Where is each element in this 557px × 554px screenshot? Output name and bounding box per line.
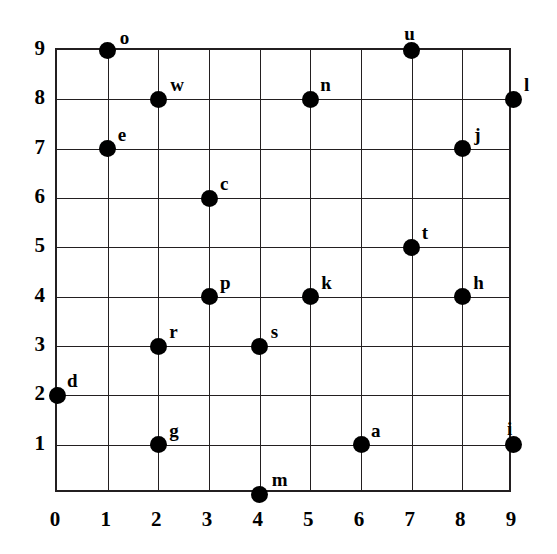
data-point-p[interactable] bbox=[201, 288, 218, 305]
x-axis-tick-0: 0 bbox=[40, 509, 70, 530]
x-axis-tick-8: 8 bbox=[445, 509, 475, 530]
y-axis-tick-3: 3 bbox=[15, 334, 45, 355]
gridline-vertical bbox=[209, 50, 210, 490]
y-axis-tick-7: 7 bbox=[15, 137, 45, 158]
data-point-t[interactable] bbox=[403, 239, 420, 256]
point-label-g: g bbox=[169, 421, 179, 440]
gridline-vertical bbox=[158, 50, 159, 490]
point-label-d: d bbox=[67, 371, 78, 390]
point-label-s: s bbox=[271, 322, 278, 341]
gridline-horizontal bbox=[57, 247, 509, 248]
gridline-vertical bbox=[462, 50, 463, 490]
data-point-h[interactable] bbox=[454, 288, 471, 305]
point-label-u: u bbox=[404, 24, 415, 43]
point-label-p: p bbox=[220, 273, 231, 292]
data-point-m[interactable] bbox=[251, 486, 268, 503]
gridline-vertical bbox=[260, 50, 261, 490]
point-label-e: e bbox=[118, 125, 126, 144]
gridline-horizontal bbox=[57, 99, 509, 100]
gridline-horizontal bbox=[57, 198, 509, 199]
point-label-o: o bbox=[120, 28, 130, 47]
data-point-s[interactable] bbox=[251, 338, 268, 355]
x-axis-tick-2: 2 bbox=[141, 509, 171, 530]
point-label-h: h bbox=[473, 273, 484, 292]
x-axis-tick-7: 7 bbox=[395, 509, 425, 530]
point-label-i: i bbox=[507, 419, 512, 438]
gridline-horizontal bbox=[57, 346, 509, 347]
data-point-c[interactable] bbox=[201, 190, 218, 207]
point-label-r: r bbox=[169, 322, 177, 341]
gridline-vertical bbox=[310, 50, 311, 490]
x-axis-tick-6: 6 bbox=[344, 509, 374, 530]
data-point-n[interactable] bbox=[302, 91, 319, 108]
data-point-e[interactable] bbox=[99, 140, 116, 157]
x-axis-tick-3: 3 bbox=[192, 509, 222, 530]
data-point-i[interactable] bbox=[505, 436, 522, 453]
point-label-k: k bbox=[321, 273, 332, 292]
point-label-t: t bbox=[422, 223, 428, 242]
x-axis-tick-4: 4 bbox=[243, 509, 273, 530]
plot-area bbox=[55, 48, 511, 492]
scatter-plot-figure: 123456789 0123456789 ouwnlejctpkhrsdgaim bbox=[0, 0, 557, 554]
x-axis-tick-5: 5 bbox=[293, 509, 323, 530]
y-axis-tick-1: 1 bbox=[15, 433, 45, 454]
gridline-horizontal bbox=[57, 149, 509, 150]
gridline-vertical bbox=[361, 50, 362, 490]
gridline-horizontal bbox=[57, 395, 509, 396]
gridline-vertical bbox=[108, 50, 109, 490]
y-axis-tick-8: 8 bbox=[15, 87, 45, 108]
data-point-d[interactable] bbox=[49, 387, 66, 404]
point-label-w: w bbox=[170, 75, 184, 94]
data-point-j[interactable] bbox=[454, 140, 471, 157]
y-axis-tick-2: 2 bbox=[15, 383, 45, 404]
y-axis-tick-5: 5 bbox=[15, 235, 45, 256]
data-point-g[interactable] bbox=[150, 436, 167, 453]
data-point-k[interactable] bbox=[302, 288, 319, 305]
y-axis-tick-9: 9 bbox=[15, 38, 45, 59]
data-point-w[interactable] bbox=[150, 91, 167, 108]
y-axis-tick-4: 4 bbox=[15, 285, 45, 306]
gridline-vertical bbox=[412, 50, 413, 490]
data-point-a[interactable] bbox=[353, 436, 370, 453]
data-point-r[interactable] bbox=[150, 338, 167, 355]
point-label-c: c bbox=[220, 174, 228, 193]
data-point-l[interactable] bbox=[505, 91, 522, 108]
point-label-m: m bbox=[272, 470, 288, 489]
y-axis-tick-6: 6 bbox=[15, 186, 45, 207]
data-point-u[interactable] bbox=[403, 42, 420, 59]
gridline-horizontal bbox=[57, 445, 509, 446]
gridline-horizontal bbox=[57, 297, 509, 298]
data-point-o[interactable] bbox=[99, 42, 116, 59]
point-label-n: n bbox=[320, 75, 331, 94]
point-label-l: l bbox=[524, 75, 529, 94]
x-axis-tick-9: 9 bbox=[496, 509, 526, 530]
x-axis-tick-1: 1 bbox=[91, 509, 121, 530]
point-label-j: j bbox=[474, 125, 480, 144]
point-label-a: a bbox=[371, 421, 381, 440]
